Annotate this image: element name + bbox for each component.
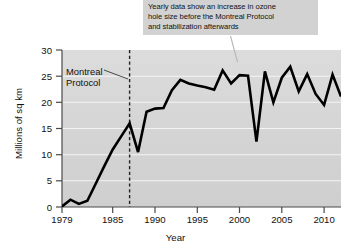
x-tick-label-1979: 1979 [42,214,82,225]
y-tick-label-20: 20 [28,97,52,108]
y-axis-title: Millions of sq km [13,77,24,171]
montreal-protocol-label-line1: Montreal [66,66,102,77]
y-tick-label-25: 25 [28,71,52,82]
x-tick-label-1990: 1990 [135,214,175,225]
y-tick-label-15: 15 [28,123,52,134]
y-tick-label-30: 30 [28,45,52,56]
x-tick-label-1985: 1985 [93,214,133,225]
montreal-protocol-label: Montreal Protocol [66,66,102,89]
chart-figure: Yearly data show an increase in ozone ho… [0,0,351,249]
x-tick-label-1995: 1995 [177,214,217,225]
x-tick-label-2010: 2010 [304,214,344,225]
y-axis-ticks [56,50,62,207]
ozone-hole-line-chart [0,0,351,249]
montreal-protocol-label-line2: Protocol [66,77,102,88]
y-tick-label-10: 10 [28,149,52,160]
x-tick-label-2005: 2005 [262,214,302,225]
x-axis-title: Year [0,232,351,243]
x-tick-label-2000: 2000 [220,214,260,225]
y-tick-label-5: 5 [28,175,52,186]
y-tick-label-0: 0 [28,202,52,213]
x-axis-ticks [62,207,324,213]
